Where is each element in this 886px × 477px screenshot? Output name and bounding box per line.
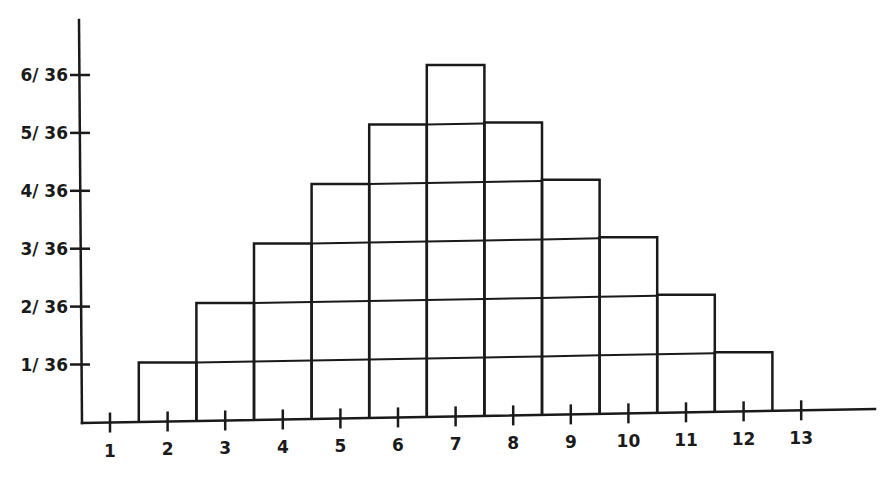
y-tick-label: 2/ 36	[20, 297, 68, 317]
y-tick-label: 3/ 36	[20, 239, 68, 259]
bar-7	[427, 65, 485, 417]
histogram-chart: 1/ 362/ 363/ 364/ 365/ 366/ 36 123456789…	[0, 0, 886, 477]
x-tick-label: 10	[617, 431, 641, 451]
bar-11	[657, 295, 715, 413]
x-ticks: 12345678910111213	[104, 400, 813, 460]
y-tick-label: 4/ 36	[20, 181, 68, 201]
bar-6	[369, 124, 427, 418]
bar-10	[600, 237, 658, 414]
x-axis	[82, 409, 875, 423]
x-tick-label: 4	[277, 437, 289, 457]
x-tick-label: 3	[219, 438, 231, 458]
bar-8	[484, 122, 542, 416]
bars	[139, 65, 773, 422]
x-tick-label: 11	[674, 430, 698, 450]
x-tick-label: 6	[392, 435, 404, 455]
x-tick-label: 5	[334, 436, 346, 456]
x-tick-label: 13	[789, 428, 813, 448]
y-tick-label: 6/ 36	[20, 65, 68, 85]
bar-4	[254, 243, 312, 420]
x-tick-label: 12	[732, 429, 756, 449]
x-tick-label: 2	[162, 439, 174, 459]
x-tick-label: 8	[507, 433, 519, 453]
bar-5	[312, 184, 370, 419]
y-axis	[79, 20, 82, 423]
bar-9	[542, 180, 600, 415]
x-tick-label: 7	[450, 434, 462, 454]
x-tick-label: 1	[104, 441, 116, 461]
y-tick-label: 5/ 36	[20, 123, 68, 143]
y-tick-label: 1/ 36	[20, 355, 68, 375]
x-tick-label: 9	[565, 432, 577, 452]
bar-3	[196, 303, 254, 421]
